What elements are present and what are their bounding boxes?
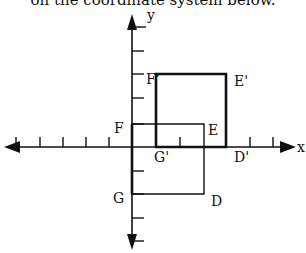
label-d: D xyxy=(211,193,222,209)
y-axis-down-arrow-icon xyxy=(127,234,137,250)
y-axis-label: y xyxy=(146,7,155,23)
label-d-prime: D' xyxy=(234,149,249,165)
label-g: G xyxy=(113,190,124,206)
x-axis-label: x xyxy=(297,139,305,155)
label-f-prime: F' xyxy=(146,71,160,87)
label-f: F xyxy=(114,120,124,136)
label-e: E xyxy=(208,122,218,138)
x-axis-left-arrow-icon xyxy=(4,141,20,153)
x-axis-right-arrow-icon xyxy=(280,141,296,153)
label-g-prime: G' xyxy=(154,149,169,165)
coordinate-plane: y x F' E' F E G' D' G D xyxy=(0,0,306,253)
label-e-prime: E' xyxy=(234,73,248,89)
y-axis-ticks xyxy=(132,27,146,241)
x-axis-ticks xyxy=(16,137,273,147)
